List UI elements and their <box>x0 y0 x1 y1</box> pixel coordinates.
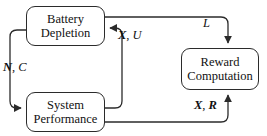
edge-label-system-to-battery: X, U <box>118 28 142 43</box>
symbol-c-italic: C <box>18 60 26 74</box>
edge-label-battery-to-reward: L <box>203 16 210 31</box>
edge-label-system-to-reward: X, R <box>194 98 217 113</box>
node-system-performance-line1: System <box>47 98 84 112</box>
node-reward-computation-line2: Computation <box>187 69 252 83</box>
node-reward-computation[interactable]: Reward Computation <box>181 48 259 90</box>
block-diagram: Battery Depletion System Performance Rew… <box>0 0 267 136</box>
symbol-r-bold: R <box>209 98 217 112</box>
node-battery-depletion-line1: Battery <box>47 12 84 26</box>
node-battery-depletion[interactable]: Battery Depletion <box>26 6 105 46</box>
node-battery-depletion-line2: Depletion <box>41 26 90 40</box>
symbol-n-bold: N <box>3 60 12 74</box>
edge-label-battery-to-system: N, C <box>3 60 27 75</box>
symbol-u-italic: U <box>133 28 142 42</box>
node-system-performance-line2: Performance <box>34 112 98 126</box>
node-system-performance[interactable]: System Performance <box>26 92 105 132</box>
node-reward-computation-line1: Reward <box>201 55 240 69</box>
